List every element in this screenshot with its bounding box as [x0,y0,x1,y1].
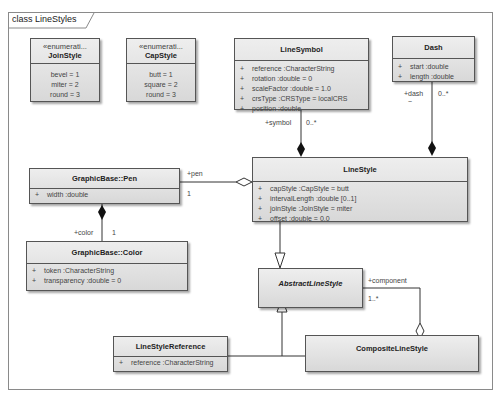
class-name: JoinStyle [33,51,97,60]
class-name: CompositeLineStyle [308,344,476,353]
stereotype: «enumerati... [129,42,193,51]
class-line-style-reference[interactable]: LineStyleReference +reference :Character… [113,336,228,372]
attribute: +capStyle :CapStyle = butt [258,184,462,194]
class-name: LineStyleReference [116,342,225,351]
class-cap-style[interactable]: «enumerati... CapStyle butt = 1 square =… [126,38,196,102]
attribute: +reference :CharacterString [119,358,222,368]
pen-role-label: +pen [187,170,203,177]
attribute: +start :double [398,62,469,72]
component-association-line [363,288,420,323]
literal: butt = 1 [132,70,190,80]
literal: miter = 2 [36,80,94,90]
visibility: + [240,84,252,94]
attributes: +reference :CharacterString +rotation :d… [235,61,368,117]
class-header: «enumerati... CapStyle [127,39,195,64]
dash-extra-label: ~ [408,98,412,105]
attribute: +crsType :CRSType = localCRS [240,94,363,104]
class-color[interactable]: GraphicBase::Color +token :CharacterStri… [26,241,188,291]
class-header: LineStyle [253,158,467,182]
class-name: GraphicBase::Color [29,248,185,257]
stereotype: «enumerati... [33,42,97,51]
class-join-style[interactable]: «enumerati... JoinStyle bevel = 1 miter … [30,38,100,102]
literals: butt = 1 square = 2 round = 3 [127,64,195,103]
linestyle-generalization-arrow [275,253,285,268]
class-header: CompositeLineStyle [306,336,478,361]
literal: bevel = 1 [36,70,94,80]
attributes: +token :CharacterString +transparency :d… [27,264,187,288]
visibility: + [240,64,252,74]
dash-multiplicity-label: 0..* [438,90,449,97]
class-name: AbstractLineStyle [261,279,360,288]
attributes: +width :double [30,189,179,201]
class-name: LineStyle [255,165,465,174]
class-header: «enumerati... JoinStyle [31,39,99,64]
attributes: +reference :CharacterString [114,357,227,369]
attribute: +length :double [398,72,469,82]
attribute: +joinStyle :JoinStyle = miter [258,204,462,214]
color-composition-diamond [98,205,106,220]
attribute: +rotation :double = 0 [240,74,363,84]
class-pen[interactable]: GraphicBase::Pen +width :double [29,168,180,204]
visibility: + [240,74,252,84]
pen-aggregation-diamond [236,178,252,186]
component-role-label: +component [368,277,407,284]
class-name: CapStyle [129,51,193,60]
attribute: +token :CharacterString [32,266,182,276]
literal: square = 2 [132,80,190,90]
visibility: + [240,94,252,104]
attribute: +transparency :double = 0 [32,276,182,286]
class-header: GraphicBase::Color [27,242,187,264]
attribute: +width :double [35,190,174,200]
class-abstract-line-style[interactable]: AbstractLineStyle [258,268,363,308]
class-header: Dash [393,37,474,59]
class-header: AbstractLineStyle [259,269,362,298]
attribute: +intervalLength :double [0..1] [258,194,462,204]
class-line-symbol[interactable]: LineSymbol +reference :CharacterString +… [234,38,369,110]
class-dash[interactable]: Dash +start :double +length :double [392,36,475,82]
class-name: LineSymbol [237,45,366,54]
attributes: +capStyle :CapStyle = butt +intervalLeng… [253,182,467,226]
literal: round = 3 [36,90,94,100]
attribute: +scaleFactor :double = 1.0 [240,84,363,94]
pen-multiplicity-label: 1 [187,190,191,197]
class-line-style[interactable]: LineStyle +capStyle :CapStyle = butt +in… [252,157,468,222]
color-multiplicity-label: 1 [112,229,116,236]
class-name: Dash [395,43,472,52]
symbol-composition-diamond [297,142,305,157]
attribute: +position :double [240,104,363,114]
class-header: GraphicBase::Pen [30,169,179,189]
literal: round = 3 [132,90,190,100]
attribute: +offset :double = 0.0 [258,214,462,224]
dash-composition-diamond [428,141,436,156]
color-role-label: +color [74,229,93,236]
attributes: +start :double +length :double [393,59,474,85]
dash-role-label: +dash [404,90,423,97]
class-name: GraphicBase::Pen [32,174,177,183]
literals: bevel = 1 miter = 2 round = 3 [31,64,99,103]
class-composite-line-style[interactable]: CompositeLineStyle [305,335,479,372]
component-multiplicity-label: 1..* [368,295,379,302]
symbol-multiplicity-label: 0..* [306,119,317,126]
class-header: LineStyleReference [114,337,227,357]
symbol-role-label: +symbol [265,119,291,126]
attribute: +reference :CharacterString [240,64,363,74]
class-header: LineSymbol [235,39,368,61]
visibility: + [240,104,252,114]
